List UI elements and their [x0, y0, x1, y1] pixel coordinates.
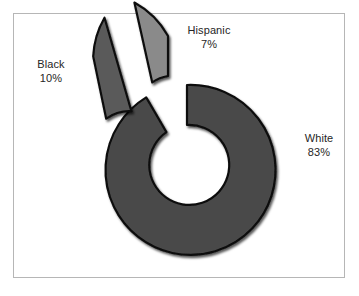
slice-label-hispanic-name: Hispanic — [176, 24, 242, 38]
slice-label-black-value: 10% — [20, 72, 82, 86]
slice-label-white: White 83% — [289, 132, 349, 159]
slice-label-black: Black 10% — [20, 58, 82, 85]
slice-label-hispanic-value: 7% — [176, 38, 242, 52]
slice-black[interactable] — [93, 18, 131, 119]
slice-label-white-name: White — [289, 132, 349, 146]
slice-label-hispanic: Hispanic 7% — [176, 24, 242, 51]
slice-label-white-value: 83% — [289, 146, 349, 160]
slice-label-black-name: Black — [20, 58, 82, 72]
slice-hispanic[interactable] — [134, 3, 168, 83]
